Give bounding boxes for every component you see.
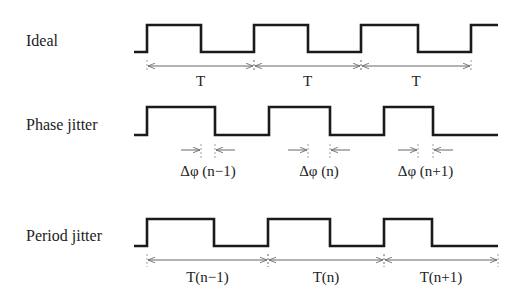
- period-label: T(n): [313, 269, 340, 286]
- period-measures-ideal: TTT: [147, 60, 471, 89]
- delta-phi-label: Δφ (n): [299, 163, 339, 180]
- period-label: T: [303, 73, 312, 89]
- period-label: T: [196, 73, 205, 89]
- delta-phi-measures: Δφ (n−1)Δφ (n)Δφ (n+1): [180, 144, 453, 180]
- row-label-period-jitter: Period jitter: [26, 227, 103, 245]
- delta-phi-label: Δφ (n+1): [398, 163, 454, 180]
- period-label: T(n+1): [420, 269, 463, 286]
- row-period-jitter: Period jitter T(n−1)T(n)T(n+1): [26, 219, 498, 286]
- waveform-ideal: [134, 25, 498, 52]
- period-measures-jitter: T(n−1)T(n)T(n+1): [147, 254, 498, 286]
- waveform-period-jitter: [134, 219, 498, 246]
- row-phase-jitter: Phase jitter Δφ (n−1)Δφ (n)Δφ (n+1): [26, 107, 498, 180]
- waveform-phase-jitter: [134, 107, 498, 135]
- delta-phi-label: Δφ (n−1): [180, 163, 236, 180]
- jitter-diagram: Ideal TTT Phase jitter Δφ (n−1)Δφ (n)Δφ …: [0, 0, 527, 301]
- row-ideal: Ideal TTT: [26, 25, 498, 89]
- period-label: T: [411, 73, 420, 89]
- row-label-phase-jitter: Phase jitter: [26, 116, 98, 134]
- period-label: T(n−1): [186, 269, 229, 286]
- row-label-ideal: Ideal: [26, 32, 59, 49]
